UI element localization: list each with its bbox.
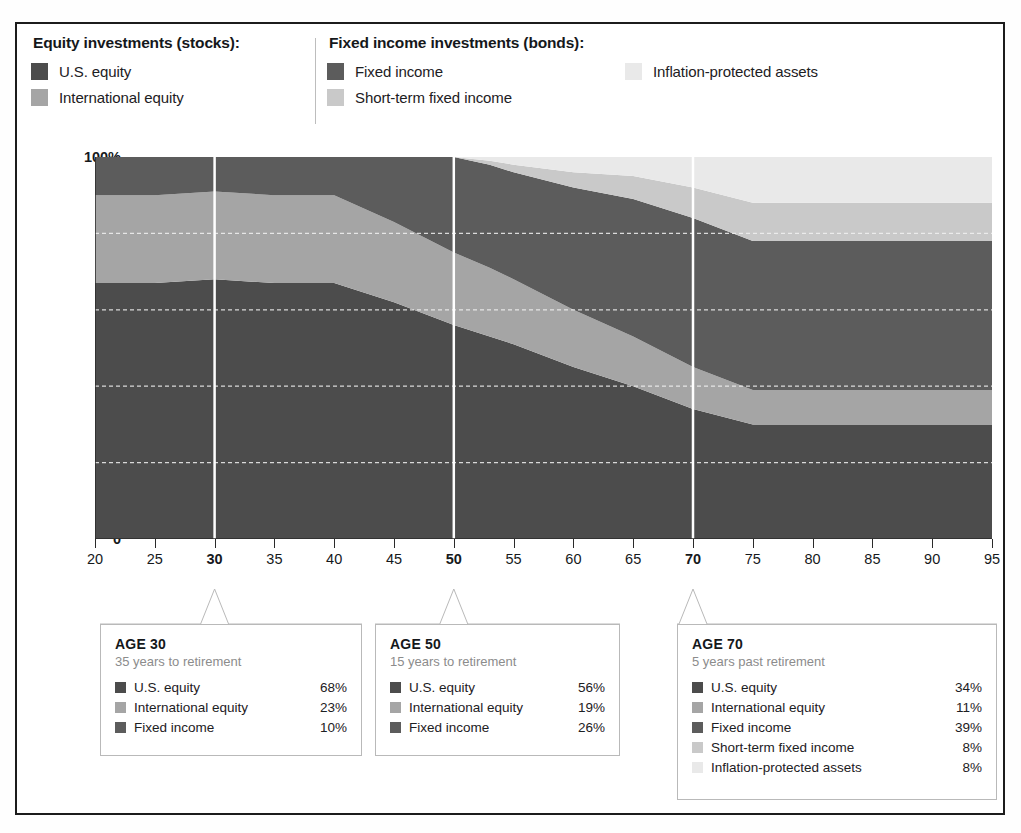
callout-row-value: 8%: [962, 738, 982, 757]
callout-rows: U.S. equity56%International equity19%Fix…: [390, 678, 605, 737]
callout-subtitle: 15 years to retirement: [390, 654, 605, 669]
callout-pointer-tails: [17, 544, 1007, 634]
callout-row-label: U.S. equity: [134, 678, 310, 697]
callout-pointer-30: [100, 589, 362, 624]
callout-row-value: 10%: [320, 718, 347, 737]
legend-divider: [315, 38, 316, 124]
callout-row: U.S. equity56%: [390, 678, 605, 697]
chart-svg: [95, 157, 992, 539]
legend-item-international-equity[interactable]: International equity: [31, 89, 311, 106]
legend-swatch-icon: [327, 63, 344, 80]
callout-row-value: 39%: [955, 718, 982, 737]
legend-item-label: International equity: [59, 89, 184, 106]
callout-swatch-icon: [390, 702, 401, 713]
legend-item-label: Inflation-protected assets: [653, 63, 818, 80]
callout-row: U.S. equity34%: [692, 678, 982, 697]
callout-age-30[interactable]: AGE 30 35 years to retirement U.S. equit…: [100, 624, 362, 756]
callout-row: Fixed income10%: [115, 718, 347, 737]
legend-item-label: Short-term fixed income: [355, 89, 512, 106]
callout-row-value: 19%: [578, 698, 605, 717]
callout-row-label: Fixed income: [409, 718, 568, 737]
callout-row-label: Fixed income: [134, 718, 310, 737]
legend-group-equity: Equity investments (stocks): U.S. equity…: [31, 34, 311, 115]
legend-item-short-term-fixed-income[interactable]: Short-term fixed income: [327, 89, 637, 106]
callout-row-value: 8%: [962, 758, 982, 777]
callout-swatch-icon: [115, 702, 126, 713]
callout-swatch-icon: [115, 722, 126, 733]
glide-path-figure: Equity investments (stocks): U.S. equity…: [0, 0, 1021, 833]
legend-group-title: Fixed income investments (bonds):: [329, 34, 637, 52]
callout-row-value: 26%: [578, 718, 605, 737]
callout-rows: U.S. equity34%International equity11%Fix…: [692, 678, 982, 777]
callout-row: U.S. equity68%: [115, 678, 347, 697]
callout-swatch-icon: [390, 722, 401, 733]
callout-row-label: Inflation-protected assets: [711, 758, 952, 777]
callout-swatch-icon: [692, 682, 703, 693]
figure-frame: Equity investments (stocks): U.S. equity…: [15, 22, 1005, 815]
legend-group-fixed-income: Fixed income investments (bonds): Fixed …: [327, 34, 637, 115]
callout-row: Fixed income26%: [390, 718, 605, 737]
legend-item-fixed-income[interactable]: Fixed income: [327, 63, 637, 80]
callout-row-label: U.S. equity: [409, 678, 568, 697]
callout-row-label: Fixed income: [711, 718, 945, 737]
callout-row-value: 34%: [955, 678, 982, 697]
callout-row-value: 68%: [320, 678, 347, 697]
callout-row-label: International equity: [711, 698, 946, 717]
legend-swatch-icon: [327, 89, 344, 106]
callout-title: AGE 50: [390, 636, 605, 652]
callout-row-label: International equity: [134, 698, 310, 717]
callout-pointer-70: [677, 589, 997, 624]
callout-row: Inflation-protected assets8%: [692, 758, 982, 777]
callout-row: International equity19%: [390, 698, 605, 717]
callout-title: AGE 70: [692, 636, 982, 652]
callout-title: AGE 30: [115, 636, 347, 652]
callout-row-value: 23%: [320, 698, 347, 717]
legend-item-us-equity[interactable]: U.S. equity: [31, 63, 311, 80]
callout-row: International equity23%: [115, 698, 347, 717]
stacked-area-chart: [95, 157, 992, 539]
callout-row-value: 56%: [578, 678, 605, 697]
callout-row-value: 11%: [956, 698, 982, 717]
callout-row: International equity11%: [692, 698, 982, 717]
callout-swatch-icon: [692, 702, 703, 713]
legend-item-label: U.S. equity: [59, 63, 131, 80]
callout-age-50[interactable]: AGE 50 15 years to retirement U.S. equit…: [375, 624, 620, 756]
callout-rows: U.S. equity68%International equity23%Fix…: [115, 678, 347, 737]
legend-swatch-icon: [625, 63, 642, 80]
callout-subtitle: 5 years past retirement: [692, 654, 982, 669]
legend-swatch-icon: [31, 63, 48, 80]
callout-swatch-icon: [692, 722, 703, 733]
plot-area: 020406080100% 20253035404550556065707580…: [80, 157, 992, 577]
callout-age-70[interactable]: AGE 70 5 years past retirement U.S. equi…: [677, 624, 997, 800]
callout-swatch-icon: [115, 682, 126, 693]
callout-swatch-icon: [692, 762, 703, 773]
callout-row: Short-term fixed income8%: [692, 738, 982, 757]
callout-row-label: U.S. equity: [711, 678, 945, 697]
callout-row-label: International equity: [409, 698, 568, 717]
chart-legend: Equity investments (stocks): U.S. equity…: [17, 24, 1003, 134]
callout-row: Fixed income39%: [692, 718, 982, 737]
legend-swatch-icon: [31, 89, 48, 106]
legend-group-inflation: Inflation-protected assets: [625, 34, 985, 89]
callout-subtitle: 35 years to retirement: [115, 654, 347, 669]
callout-pointer-50: [375, 589, 620, 624]
legend-group-title: Equity investments (stocks):: [33, 34, 311, 52]
legend-item-label: Fixed income: [355, 63, 443, 80]
callout-row-label: Short-term fixed income: [711, 738, 952, 757]
callout-swatch-icon: [390, 682, 401, 693]
legend-item-inflation-protected-assets[interactable]: Inflation-protected assets: [625, 63, 985, 80]
callout-swatch-icon: [692, 742, 703, 753]
